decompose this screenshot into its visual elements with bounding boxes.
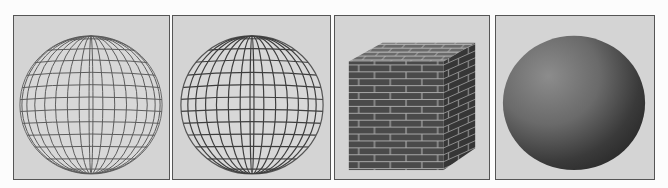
panel-brick-cube: Brick-textured cube <box>334 15 490 180</box>
panel-wireframe-sphere: Wireframe sphere (latitude/longitude lin… <box>13 15 170 180</box>
wireframe-sphere-icon <box>14 16 169 179</box>
brick-cube-icon <box>335 16 489 179</box>
panel-shaded-wireframe-sphere: Wireframe sphere with hidden-line shadin… <box>172 15 331 180</box>
shaded-wireframe-sphere-icon <box>173 16 330 179</box>
shaded-sphere-icon <box>496 16 654 179</box>
panel-shaded-sphere: Smooth shaded sphere <box>495 15 655 180</box>
